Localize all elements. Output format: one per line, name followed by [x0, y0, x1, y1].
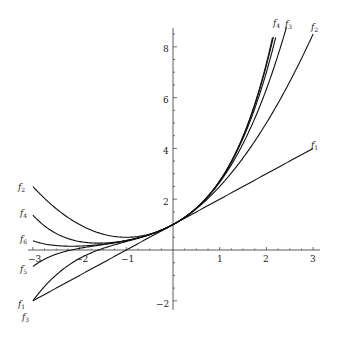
- y-tick-m2: −2: [156, 299, 169, 309]
- x-tick-p3: 3: [310, 254, 316, 264]
- y-tick-p2: 2: [163, 197, 169, 207]
- label-f1-left: f1: [17, 299, 25, 310]
- label-f3-left: f3: [21, 312, 29, 323]
- curve-f3: [33, 27, 287, 301]
- label-f6-left: f6: [19, 234, 27, 245]
- x-tick-p1: 1: [217, 254, 223, 264]
- tick-labels: −3 −2 −1 1 2 3 8 6 4 2 −2: [28, 44, 316, 309]
- x-tick-p2: 2: [263, 254, 269, 264]
- curve-f4: [33, 37, 276, 243]
- label-f1-right: f1: [310, 140, 318, 151]
- label-f3-top: f3: [284, 19, 292, 30]
- label-f4-left: f4: [19, 208, 27, 219]
- y-tick-p6: 6: [163, 95, 169, 105]
- label-f2-left: f2: [17, 182, 25, 193]
- taylor-chart: −3 −2 −1 1 2 3 8 6 4 2 −2 f4 f3 f2 f1 f2…: [0, 0, 339, 340]
- label-f4-top: f4: [272, 18, 280, 29]
- curve-f6: [33, 38, 273, 247]
- x-tick-m3: −3: [28, 254, 42, 264]
- y-tick-p8: 8: [163, 44, 169, 54]
- y-tick-p4: 4: [163, 146, 169, 156]
- x-tick-m1: −1: [121, 254, 134, 264]
- x-tick-m2: −2: [75, 254, 88, 264]
- label-f5-left: f5: [19, 264, 27, 275]
- label-f2-top: f2: [310, 22, 318, 33]
